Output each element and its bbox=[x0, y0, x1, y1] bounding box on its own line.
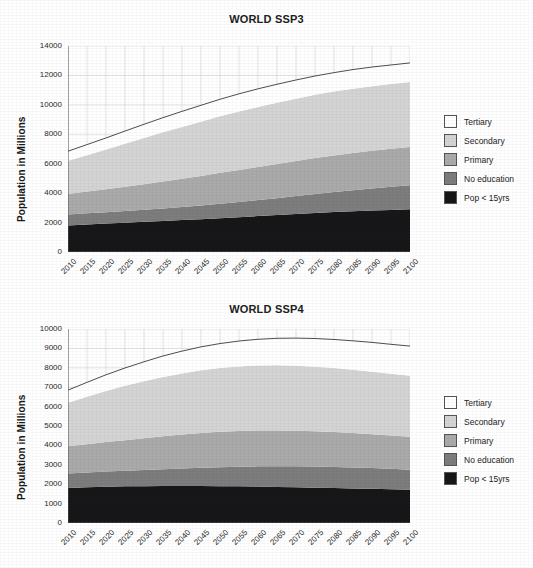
legend-item: Tertiary bbox=[444, 393, 514, 412]
y-tick-label: 0 bbox=[22, 518, 62, 527]
x-tick-label: 2070 bbox=[286, 257, 307, 278]
x-tick-label: 2040 bbox=[172, 257, 193, 278]
legend-item-label: Primary bbox=[464, 155, 493, 165]
legend-item-label: Secondary bbox=[464, 136, 505, 146]
area-band bbox=[68, 486, 410, 523]
x-tick-label: 2080 bbox=[324, 257, 345, 278]
legend-swatch-icon bbox=[444, 472, 457, 485]
x-tick-label: 2100 bbox=[400, 257, 421, 278]
y-tick-label: 1000 bbox=[22, 499, 62, 508]
y-tick-label: 2000 bbox=[22, 479, 62, 488]
x-tick-label: 2065 bbox=[267, 528, 288, 549]
x-tick-label: 2075 bbox=[305, 528, 326, 549]
x-tick-label: 2095 bbox=[381, 257, 402, 278]
legend-item-label: No education bbox=[464, 174, 514, 184]
legend-item: Pop < 15yrs bbox=[444, 469, 514, 488]
y-tick-label: 5000 bbox=[22, 421, 62, 430]
x-tick-label: 2050 bbox=[210, 257, 231, 278]
x-tick-label: 2035 bbox=[153, 528, 174, 549]
x-tick-label: 2090 bbox=[362, 257, 383, 278]
x-tick-label: 2045 bbox=[191, 528, 212, 549]
x-tick-label: 2070 bbox=[286, 528, 307, 549]
legend-swatch-icon bbox=[444, 134, 457, 147]
x-tick-label: 2095 bbox=[381, 528, 402, 549]
x-tick-label: 2065 bbox=[267, 257, 288, 278]
chart-panel-ssp3: WORLD SSP3 Population in Millions 020004… bbox=[0, 0, 533, 292]
plot-area-ssp4 bbox=[68, 329, 410, 523]
x-tick-label: 2085 bbox=[343, 257, 364, 278]
x-tick-label: 2045 bbox=[191, 257, 212, 278]
x-tick-label: 2010 bbox=[58, 257, 79, 278]
y-tick-label: 10000 bbox=[22, 324, 62, 333]
y-tick-label: 4000 bbox=[22, 440, 62, 449]
legend-ssp3: TertiarySecondaryPrimaryNo educationPop … bbox=[444, 112, 514, 207]
y-tick-label: 12000 bbox=[22, 70, 62, 79]
x-tick-label: 2015 bbox=[77, 257, 98, 278]
y-tick-label: 6000 bbox=[22, 159, 62, 168]
x-tick-label: 2090 bbox=[362, 528, 383, 549]
y-tick-label: 8000 bbox=[22, 363, 62, 372]
y-tick-label: 14000 bbox=[22, 41, 62, 50]
y-tick-label: 9000 bbox=[22, 343, 62, 352]
legend-item: Secondary bbox=[444, 131, 514, 150]
x-tick-label: 2020 bbox=[96, 257, 117, 278]
x-tick-label: 2075 bbox=[305, 257, 326, 278]
plot-area-ssp3 bbox=[68, 46, 410, 252]
legend-item: No education bbox=[444, 169, 514, 188]
y-tick-label: 4000 bbox=[22, 188, 62, 197]
x-tick-label: 2025 bbox=[115, 257, 136, 278]
stacked-area-svg-ssp4 bbox=[68, 329, 410, 523]
legend-swatch-icon bbox=[444, 396, 457, 409]
chart-panel-ssp4: WORLD SSP4 Population in Millions 010002… bbox=[0, 292, 533, 568]
legend-swatch-icon bbox=[444, 453, 457, 466]
chart-title-ssp3: WORLD SSP3 bbox=[0, 13, 533, 25]
legend-item: Pop < 15yrs bbox=[444, 188, 514, 207]
legend-item-label: Primary bbox=[464, 436, 493, 446]
x-tick-label: 2100 bbox=[400, 528, 421, 549]
legend-swatch-icon bbox=[444, 434, 457, 447]
x-tick-label: 2020 bbox=[96, 528, 117, 549]
x-tick-label: 2030 bbox=[134, 257, 155, 278]
legend-item-label: Secondary bbox=[464, 417, 505, 427]
y-tick-label: 2000 bbox=[22, 218, 62, 227]
legend-swatch-icon bbox=[444, 172, 457, 185]
y-tick-label: 0 bbox=[22, 247, 62, 256]
x-tick-label: 2010 bbox=[58, 528, 79, 549]
x-tick-label: 2055 bbox=[229, 528, 250, 549]
legend-item-label: Tertiary bbox=[464, 398, 492, 408]
y-tick-label: 7000 bbox=[22, 382, 62, 391]
y-tick-label: 3000 bbox=[22, 460, 62, 469]
x-tick-label: 2040 bbox=[172, 528, 193, 549]
x-tick-label: 2060 bbox=[248, 528, 269, 549]
legend-item-label: No education bbox=[464, 455, 514, 465]
legend-item: Primary bbox=[444, 150, 514, 169]
x-tick-label: 2050 bbox=[210, 528, 231, 549]
y-tick-label: 6000 bbox=[22, 402, 62, 411]
x-tick-label: 2085 bbox=[343, 528, 364, 549]
x-tick-label: 2030 bbox=[134, 528, 155, 549]
x-tick-label: 2035 bbox=[153, 257, 174, 278]
legend-ssp4: TertiarySecondaryPrimaryNo educationPop … bbox=[444, 393, 514, 488]
chart-title-ssp4: WORLD SSP4 bbox=[0, 303, 533, 315]
x-tick-label: 2025 bbox=[115, 528, 136, 549]
legend-item-label: Pop < 15yrs bbox=[464, 193, 510, 203]
legend-item: No education bbox=[444, 450, 514, 469]
legend-item-label: Pop < 15yrs bbox=[464, 474, 510, 484]
legend-item: Secondary bbox=[444, 412, 514, 431]
legend-swatch-icon bbox=[444, 153, 457, 166]
legend-item: Primary bbox=[444, 431, 514, 450]
x-tick-label: 2015 bbox=[77, 528, 98, 549]
legend-item-label: Tertiary bbox=[464, 117, 492, 127]
legend-swatch-icon bbox=[444, 115, 457, 128]
y-tick-label: 10000 bbox=[22, 100, 62, 109]
legend-item: Tertiary bbox=[444, 112, 514, 131]
stacked-area-svg-ssp3 bbox=[68, 46, 410, 252]
x-tick-label: 2055 bbox=[229, 257, 250, 278]
legend-swatch-icon bbox=[444, 415, 457, 428]
legend-swatch-icon bbox=[444, 191, 457, 204]
x-tick-label: 2080 bbox=[324, 528, 345, 549]
x-tick-label: 2060 bbox=[248, 257, 269, 278]
y-tick-label: 8000 bbox=[22, 129, 62, 138]
